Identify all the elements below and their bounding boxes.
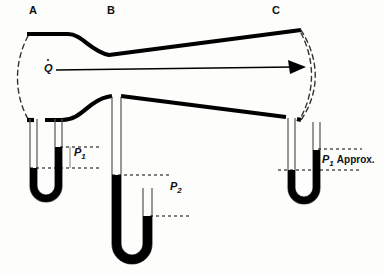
manometer-c-mercury — [288, 150, 320, 204]
duct-lower-wall-outlet — [297, 119, 301, 120]
outlet-face-arc-outer — [301, 30, 315, 120]
venturi-duct — [18, 30, 316, 120]
duct-upper-wall — [27, 30, 301, 55]
pressure-label-p1-approx: P1Approx. — [322, 153, 375, 168]
manometer-a-mercury — [30, 147, 62, 202]
pressure-label-p1-subscript: 1 — [81, 152, 85, 161]
pressure-label-p2: P2 — [170, 180, 182, 195]
station-label-b: B — [107, 4, 115, 16]
flow-arrow-shaft — [56, 67, 293, 70]
manometer-a-tube-inner — [37, 119, 55, 195]
manometer-a — [30, 119, 100, 202]
venturi-manometer-figure: A B C Q P1 P2 P1Approx. — [0, 0, 384, 275]
flow-arrow-head — [288, 60, 306, 74]
duct-lower-wall-diverging — [121, 96, 286, 117]
manometer-c-tube-inner — [295, 118, 313, 197]
flow-rate-symbol: Q — [44, 62, 53, 74]
inlet-face-arc — [18, 36, 29, 119]
flow-arrow — [56, 60, 306, 74]
pressure-label-p1: P1 — [74, 146, 86, 161]
flow-rate-letter: Q — [44, 62, 53, 74]
pressure-label-p2-subscript: 2 — [177, 186, 181, 195]
pressure-label-approx-suffix: Approx. — [337, 154, 375, 165]
manometer-b-tube-inner — [121, 97, 143, 255]
figure-canvas — [0, 0, 384, 275]
station-label-c: C — [272, 4, 280, 16]
flow-rate-dot — [47, 59, 49, 61]
pressure-label-p1-approx-subscript: 1 — [329, 159, 333, 168]
outlet-face-arc-inner — [301, 33, 312, 117]
manometer-b-mercury — [112, 175, 152, 264]
station-label-a: A — [29, 4, 37, 16]
duct-lower-wall-converging — [45, 96, 112, 120]
